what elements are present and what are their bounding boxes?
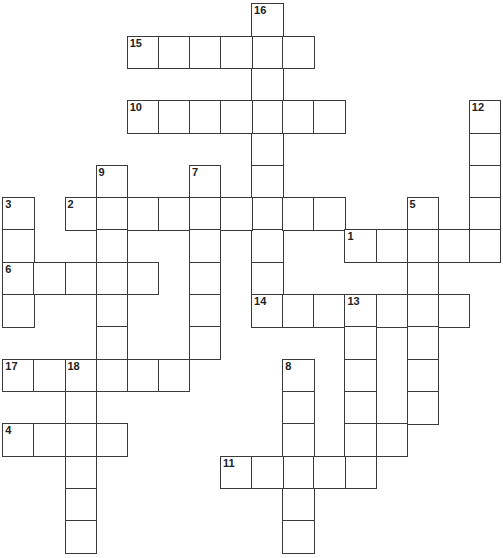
crossword-cell[interactable] bbox=[96, 294, 129, 328]
crossword-cell[interactable] bbox=[251, 100, 284, 134]
crossword-cell[interactable]: 16 bbox=[251, 3, 284, 37]
crossword-cell[interactable] bbox=[96, 262, 129, 296]
crossword-cell[interactable] bbox=[282, 391, 315, 425]
crossword-cell[interactable] bbox=[220, 100, 253, 134]
crossword-cell[interactable] bbox=[65, 391, 98, 425]
crossword-cell[interactable] bbox=[282, 294, 315, 328]
crossword-cell[interactable] bbox=[376, 423, 409, 457]
crossword-cell[interactable] bbox=[33, 359, 66, 393]
crossword-cell[interactable]: 13 bbox=[344, 294, 377, 328]
crossword-cell[interactable]: 4 bbox=[2, 423, 35, 457]
crossword-cell[interactable] bbox=[313, 100, 346, 134]
crossword-cell[interactable] bbox=[407, 326, 440, 360]
crossword-cell[interactable] bbox=[251, 456, 284, 490]
crossword-cell[interactable]: 12 bbox=[469, 100, 502, 134]
crossword-cell[interactable] bbox=[189, 36, 222, 70]
crossword-cell[interactable] bbox=[158, 100, 191, 134]
crossword-cell[interactable] bbox=[189, 326, 222, 360]
crossword-cell[interactable] bbox=[282, 456, 315, 490]
crossword-cell[interactable]: 7 bbox=[189, 165, 222, 199]
crossword-cell[interactable] bbox=[65, 520, 98, 554]
crossword-cell[interactable] bbox=[251, 133, 284, 167]
crossword-cell[interactable] bbox=[344, 391, 377, 425]
crossword-cell[interactable] bbox=[251, 197, 284, 231]
crossword-cell[interactable] bbox=[158, 359, 191, 393]
crossword-cell[interactable] bbox=[313, 294, 346, 328]
crossword-cell[interactable]: 6 bbox=[2, 262, 35, 296]
crossword-cell[interactable] bbox=[33, 423, 66, 457]
crossword-cell[interactable] bbox=[344, 326, 377, 360]
clue-number: 9 bbox=[99, 167, 105, 178]
crossword-cell[interactable] bbox=[96, 197, 129, 231]
crossword-cell[interactable]: 8 bbox=[282, 359, 315, 393]
crossword-cell[interactable] bbox=[158, 197, 191, 231]
crossword-cell[interactable] bbox=[344, 456, 377, 490]
crossword-cell[interactable] bbox=[313, 197, 346, 231]
crossword-cell[interactable] bbox=[189, 197, 222, 231]
crossword-grid: 161415101297362511317188411 bbox=[0, 0, 503, 558]
crossword-cell[interactable] bbox=[407, 262, 440, 296]
crossword-cell[interactable] bbox=[127, 359, 160, 393]
crossword-cell[interactable] bbox=[220, 36, 253, 70]
crossword-cell[interactable]: 5 bbox=[407, 197, 440, 231]
crossword-cell[interactable] bbox=[251, 68, 284, 102]
crossword-cell[interactable] bbox=[282, 520, 315, 554]
crossword-cell[interactable] bbox=[438, 294, 471, 328]
crossword-cell[interactable] bbox=[127, 197, 160, 231]
crossword-cell[interactable] bbox=[282, 488, 315, 522]
crossword-cell[interactable] bbox=[469, 197, 502, 231]
crossword-cell[interactable] bbox=[282, 100, 315, 134]
crossword-cell[interactable] bbox=[127, 262, 160, 296]
crossword-cell[interactable] bbox=[469, 165, 502, 199]
crossword-cell[interactable] bbox=[251, 229, 284, 263]
crossword-cell[interactable] bbox=[313, 456, 346, 490]
crossword-cell[interactable] bbox=[158, 36, 191, 70]
clue-number: 13 bbox=[347, 296, 359, 307]
crossword-cell[interactable] bbox=[189, 294, 222, 328]
crossword-cell[interactable] bbox=[407, 229, 440, 263]
crossword-cell[interactable] bbox=[344, 359, 377, 393]
crossword-cell[interactable] bbox=[65, 456, 98, 490]
crossword-cell[interactable] bbox=[189, 262, 222, 296]
crossword-cell[interactable] bbox=[96, 326, 129, 360]
crossword-cell[interactable] bbox=[251, 262, 284, 296]
crossword-cell[interactable] bbox=[96, 229, 129, 263]
crossword-cell[interactable] bbox=[407, 294, 440, 328]
crossword-cell[interactable] bbox=[189, 229, 222, 263]
crossword-cell[interactable] bbox=[96, 359, 129, 393]
crossword-cell[interactable] bbox=[251, 36, 284, 70]
clue-number: 1 bbox=[347, 231, 353, 242]
crossword-cell[interactable] bbox=[33, 262, 66, 296]
clue-number: 12 bbox=[472, 102, 484, 113]
crossword-cell[interactable] bbox=[282, 36, 315, 70]
crossword-cell[interactable]: 3 bbox=[2, 197, 35, 231]
crossword-cell[interactable] bbox=[65, 262, 98, 296]
crossword-cell[interactable]: 2 bbox=[65, 197, 98, 231]
crossword-cell[interactable] bbox=[407, 359, 440, 393]
crossword-cell[interactable]: 15 bbox=[127, 36, 160, 70]
crossword-cell[interactable] bbox=[438, 229, 471, 263]
crossword-cell[interactable]: 1 bbox=[344, 229, 377, 263]
crossword-cell[interactable]: 18 bbox=[65, 359, 98, 393]
crossword-cell[interactable] bbox=[2, 294, 35, 328]
crossword-cell[interactable] bbox=[189, 100, 222, 134]
crossword-cell[interactable] bbox=[407, 391, 440, 425]
crossword-cell[interactable]: 11 bbox=[220, 456, 253, 490]
crossword-cell[interactable] bbox=[2, 229, 35, 263]
crossword-cell[interactable] bbox=[65, 488, 98, 522]
crossword-cell[interactable]: 14 bbox=[251, 294, 284, 328]
crossword-cell[interactable]: 17 bbox=[2, 359, 35, 393]
crossword-cell[interactable] bbox=[469, 229, 502, 263]
crossword-cell[interactable] bbox=[469, 133, 502, 167]
crossword-cell[interactable] bbox=[282, 423, 315, 457]
crossword-cell[interactable] bbox=[220, 197, 253, 231]
crossword-cell[interactable] bbox=[376, 294, 409, 328]
crossword-cell[interactable] bbox=[65, 423, 98, 457]
crossword-cell[interactable]: 9 bbox=[96, 165, 129, 199]
crossword-cell[interactable] bbox=[376, 229, 409, 263]
crossword-cell[interactable] bbox=[96, 423, 129, 457]
crossword-cell[interactable] bbox=[282, 197, 315, 231]
crossword-cell[interactable] bbox=[251, 165, 284, 199]
crossword-cell[interactable] bbox=[344, 423, 377, 457]
crossword-cell[interactable]: 10 bbox=[127, 100, 160, 134]
